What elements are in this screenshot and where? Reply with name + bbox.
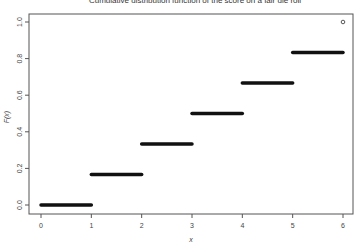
- step-segments: [41, 53, 343, 205]
- x-axis-label: x: [188, 236, 193, 243]
- x-tick-label: 0: [39, 222, 43, 229]
- x-tick-label: 6: [341, 222, 345, 229]
- x-tick-label: 3: [190, 222, 194, 229]
- y-tick-label: 0.8: [16, 54, 23, 64]
- y-tick-label: 0.0: [16, 200, 23, 210]
- x-tick-label: 4: [240, 222, 244, 229]
- x-tick-label: 2: [140, 222, 144, 229]
- endpoint-markers: [341, 20, 345, 24]
- y-tick-label: 0.6: [16, 90, 23, 100]
- y-tick-label: 0.4: [16, 127, 23, 137]
- x-tick-label: 1: [89, 222, 93, 229]
- x-tick-label: 5: [291, 222, 295, 229]
- cdf-chart: Cumulative distribution function of the …: [0, 0, 357, 248]
- chart-title: Cumulative distribution function of the …: [89, 0, 301, 5]
- y-axis-label: F(x): [3, 111, 11, 123]
- y-tick-label: 0.2: [16, 163, 23, 173]
- y-axis: 0.00.20.40.60.81.0: [16, 17, 29, 210]
- x-axis: 0123456: [39, 214, 345, 229]
- open-circle-marker: [341, 20, 345, 24]
- y-tick-label: 1.0: [16, 17, 23, 27]
